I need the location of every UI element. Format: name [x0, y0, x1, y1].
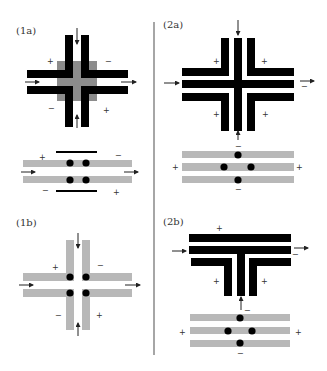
plus-sign: + [216, 224, 223, 233]
diagram-canvas: +−−+(1a)+−−++−−+(1b)++−++(2a)−++−+−++−(2… [0, 0, 327, 371]
black-bar [56, 190, 97, 192]
gray-bar [182, 163, 294, 171]
plus-sign: + [295, 328, 302, 337]
panel-2b: +−++−(2b) [163, 216, 308, 315]
contact-dot [66, 273, 73, 280]
minus-sign: − [235, 185, 242, 194]
minus-sign: − [244, 306, 251, 315]
contact-dot [234, 151, 241, 158]
contact-dot [82, 176, 89, 183]
black-bar [224, 258, 232, 296]
black-bar [237, 246, 245, 296]
panel-label: (1b) [16, 217, 37, 228]
black-bar [66, 281, 90, 289]
plus-sign: + [261, 57, 268, 66]
black-bar [247, 38, 255, 76]
overlap-square [57, 78, 97, 86]
black-bar [247, 93, 255, 131]
contact-dot [236, 339, 243, 346]
panel-2b-lower: ++− [179, 314, 302, 358]
plus-sign: + [96, 311, 103, 320]
contact-dot [66, 159, 73, 166]
black-bar [249, 258, 257, 296]
minus-sign: − [235, 142, 242, 151]
black-bar [189, 234, 291, 242]
contact-dot [224, 327, 231, 334]
contact-dot [247, 163, 254, 170]
plus-sign: + [296, 163, 303, 172]
contact-dot [66, 176, 73, 183]
minus-sign: − [48, 104, 55, 113]
contact-dot [82, 289, 89, 296]
contact-dot [236, 314, 243, 321]
panel-1a-lower: +−−+ [21, 151, 138, 197]
panel-2a-lower: −++− [172, 142, 303, 194]
plus-sign: + [213, 277, 220, 286]
gray-bar [190, 327, 290, 334]
plus-sign: + [172, 163, 179, 172]
gray-bar [23, 176, 132, 183]
plus-sign: + [262, 110, 269, 119]
contact-dot [220, 163, 227, 170]
contact-dot [234, 176, 241, 183]
minus-sign: − [97, 261, 104, 270]
plus-sign: + [261, 277, 268, 286]
minus-sign: − [55, 311, 62, 320]
contact-dot [66, 289, 73, 296]
black-bar [234, 38, 242, 131]
black-bar [56, 151, 97, 153]
plus-sign: + [52, 263, 59, 272]
plus-sign: + [103, 106, 110, 115]
panel-1a: +−−+(1a) [16, 25, 136, 128]
minus-sign: − [115, 151, 122, 160]
panel-label: (2b) [163, 216, 184, 227]
minus-sign: − [237, 349, 244, 358]
contact-dot [82, 273, 89, 280]
contact-dot [82, 159, 89, 166]
plus-sign: + [179, 328, 186, 337]
panel-1b: +−−+(1b) [16, 217, 140, 336]
black-bar [221, 93, 229, 131]
panel-label: (1a) [16, 25, 36, 36]
minus-sign: − [42, 186, 49, 195]
panel-label: (2a) [163, 19, 183, 30]
plus-sign: + [113, 188, 120, 197]
panels-root: +−−+(1a)+−−++−−+(1b)++−++(2a)−++−+−++−(2… [16, 19, 314, 358]
minus-sign: − [301, 82, 308, 91]
panel-2a: ++−++(2a) [163, 19, 314, 140]
plus-sign: + [213, 57, 220, 66]
plus-sign: + [47, 57, 54, 66]
black-bar [221, 38, 229, 76]
minus-sign: − [292, 250, 299, 259]
contact-dot [248, 327, 255, 334]
plus-sign: + [213, 110, 220, 119]
plus-sign: + [39, 153, 46, 162]
minus-sign: − [105, 57, 112, 66]
